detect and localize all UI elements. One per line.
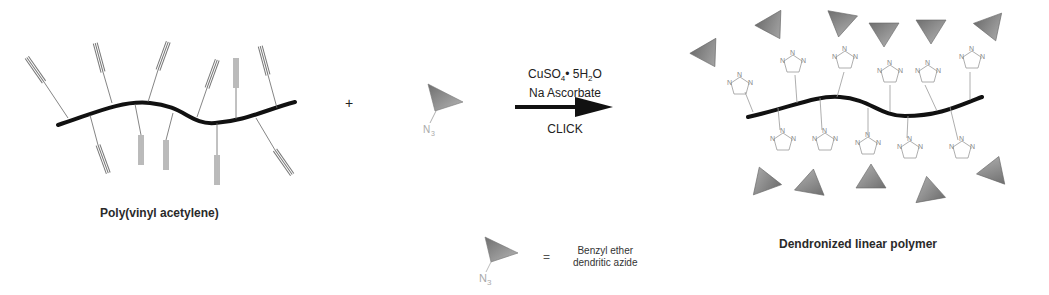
- reaction-conditions-above: CuSO4• 5H2O Na Ascorbate: [515, 67, 615, 101]
- hydrate-text: • 5H: [565, 67, 588, 81]
- legend-dendritic-azide: [485, 237, 518, 272]
- condition-line-2: Na Ascorbate: [515, 86, 615, 101]
- reactant-name: Poly(vinyl acetylene): [100, 206, 219, 220]
- legend-equals-sign: =: [543, 250, 550, 264]
- subscript: 3: [487, 278, 491, 287]
- plus-sign: +: [345, 95, 353, 111]
- condition-line-1: CuSO4• 5H2O: [515, 67, 615, 86]
- oxygen-text: O: [593, 67, 602, 81]
- legend-description: Benzyl ether dendritic azide: [573, 245, 637, 269]
- legend-description-line-1: Benzyl ether: [573, 245, 637, 257]
- product-name: Dendronized linear polymer: [779, 237, 937, 251]
- polymer-backbone: [58, 102, 295, 125]
- svg-text:N: N: [423, 124, 430, 135]
- nitrogen-text: N: [479, 272, 487, 284]
- svg-text:3: 3: [431, 130, 435, 137]
- dendritic-azide-reagent: N 3: [423, 84, 463, 137]
- reaction-label-click: CLICK: [515, 122, 615, 136]
- cuso4-text: CuSO: [528, 67, 561, 81]
- poly-vinyl-acetylene-structure: [25, 41, 295, 185]
- legend-description-line-2: dendritic azide: [573, 257, 637, 269]
- legend-azide-label: N3: [479, 272, 491, 287]
- product-backbone: [748, 97, 982, 117]
- dendronized-polymer-structure: [690, 10, 1013, 202]
